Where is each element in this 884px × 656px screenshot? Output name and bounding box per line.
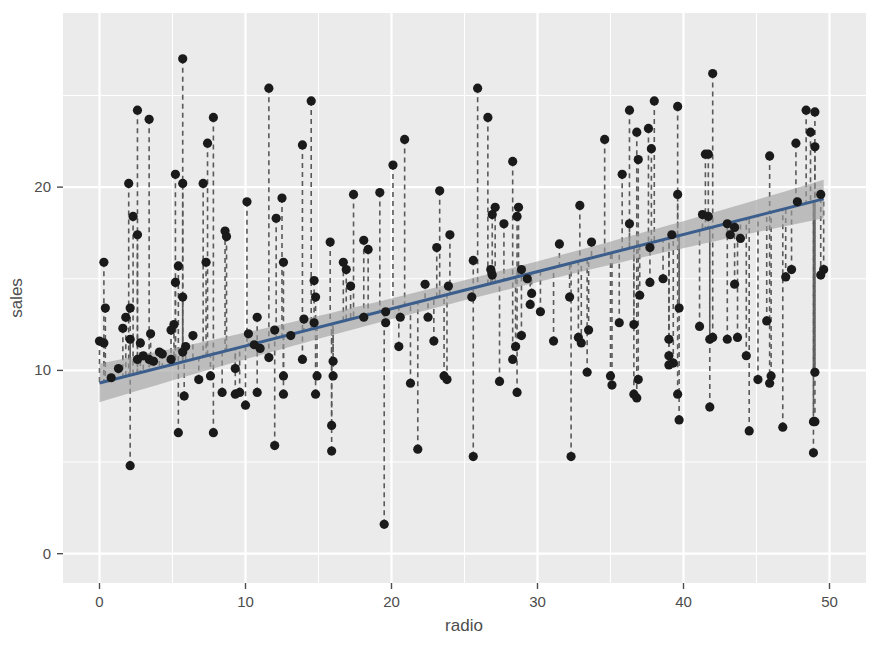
data-point (549, 336, 558, 345)
data-point (128, 212, 137, 221)
data-point (523, 274, 532, 283)
data-point (180, 391, 189, 400)
y-tick-label: 10 (34, 361, 51, 378)
data-point (629, 390, 638, 399)
data-point (473, 84, 482, 93)
data-point (730, 223, 739, 232)
data-point (444, 281, 453, 290)
data-point (222, 232, 231, 241)
data-point (781, 272, 790, 281)
data-point (555, 239, 564, 248)
data-point (121, 313, 130, 322)
data-point (286, 331, 295, 340)
data-point (133, 230, 142, 239)
data-point (298, 140, 307, 149)
data-point (413, 445, 422, 454)
x-tick-label: 50 (821, 593, 838, 610)
data-point (439, 371, 448, 380)
data-point (514, 203, 523, 212)
data-point (629, 320, 638, 329)
data-point (664, 351, 673, 360)
data-point (339, 258, 348, 267)
data-point (429, 336, 438, 345)
data-point (742, 351, 751, 360)
data-point (396, 313, 405, 322)
data-point (733, 333, 742, 342)
data-point (394, 342, 403, 351)
data-point (810, 107, 819, 116)
data-point (469, 452, 478, 461)
data-point (445, 230, 454, 239)
data-point (644, 124, 653, 133)
data-point (310, 276, 319, 285)
data-point (381, 318, 390, 327)
data-point (819, 265, 828, 274)
data-point (816, 190, 825, 199)
data-point (311, 292, 320, 301)
data-point (745, 426, 754, 435)
data-point (536, 307, 545, 316)
data-point (704, 150, 713, 159)
data-point (618, 170, 627, 179)
data-point (810, 417, 819, 426)
data-point (209, 428, 218, 437)
data-point (511, 342, 520, 351)
data-point (810, 368, 819, 377)
data-point (253, 313, 262, 322)
data-point (650, 96, 659, 105)
data-point (723, 335, 732, 344)
data-point (380, 520, 389, 529)
data-point (279, 371, 288, 380)
data-point (346, 281, 355, 290)
data-point (242, 197, 251, 206)
data-point (178, 179, 187, 188)
data-point (327, 421, 336, 430)
data-point (149, 357, 158, 366)
data-point (810, 142, 819, 151)
data-point (174, 261, 183, 270)
data-point (512, 388, 521, 397)
data-point (765, 151, 774, 160)
data-point (645, 243, 654, 252)
data-point (279, 390, 288, 399)
y-tick-label: 20 (34, 178, 51, 195)
data-point (311, 390, 320, 399)
data-point (145, 115, 154, 124)
data-point (495, 377, 504, 386)
data-point (264, 84, 273, 93)
data-point (114, 364, 123, 373)
data-point (577, 338, 586, 347)
y-axis-title: sales (7, 278, 26, 318)
data-point (329, 357, 338, 366)
data-point (809, 448, 818, 457)
data-point (467, 292, 476, 301)
x-tick-label: 30 (529, 593, 546, 610)
data-point (264, 353, 273, 362)
data-point (508, 355, 517, 364)
data-point (326, 238, 335, 247)
data-point (388, 161, 397, 170)
x-tick-label: 10 (237, 593, 254, 610)
data-point (606, 371, 615, 380)
x-axis-title: radio (445, 616, 483, 635)
data-point (256, 344, 265, 353)
data-point (199, 179, 208, 188)
data-point (166, 325, 175, 334)
data-point (118, 324, 127, 333)
data-point (307, 96, 316, 105)
data-point (600, 135, 609, 144)
data-point (133, 106, 142, 115)
data-point (762, 316, 771, 325)
data-point (329, 371, 338, 380)
data-point (767, 371, 776, 380)
data-point (277, 194, 286, 203)
data-point (787, 265, 796, 274)
data-point (730, 280, 739, 289)
data-point (146, 329, 155, 338)
data-point (171, 278, 180, 287)
data-point (310, 318, 319, 327)
data-point (203, 139, 212, 148)
data-point (667, 230, 676, 239)
data-point (174, 428, 183, 437)
data-point (279, 258, 288, 267)
